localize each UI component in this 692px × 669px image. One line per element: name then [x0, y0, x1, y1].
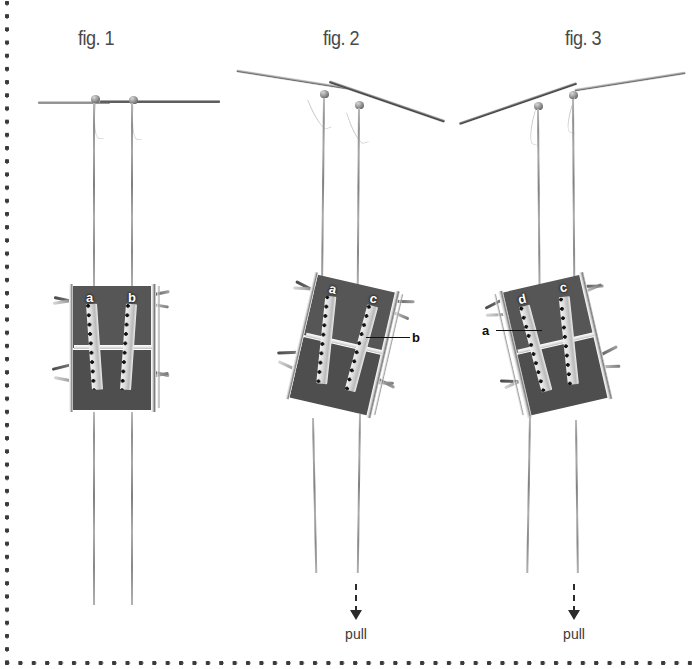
rod-right-segment — [574, 71, 685, 91]
device-body-fig1: a b — [56, 282, 166, 418]
pull-arrow-fig2: pull — [316, 584, 396, 654]
figure-3-caption: fig. 3 — [565, 26, 601, 50]
plate-upper — [72, 286, 152, 348]
string-left-lower — [312, 418, 317, 573]
pull-arrow-head — [568, 610, 580, 620]
device-body-fig3: d c — [486, 267, 627, 429]
label-a-fig3: a — [482, 324, 489, 337]
figure-1-caption: fig. 1 — [78, 26, 114, 50]
figure-3: fig. 3 — [452, 0, 692, 669]
leader-line-b-fig2 — [366, 337, 410, 338]
rod-left-segment — [236, 69, 347, 89]
knot-left — [91, 95, 100, 103]
pull-arrow-shaft — [355, 584, 357, 612]
string-wisp-left — [307, 95, 332, 132]
pull-arrow-head — [350, 610, 362, 620]
figure-2: fig. 2 — [238, 0, 463, 669]
plate-lower — [72, 350, 152, 410]
string-left-upper — [93, 103, 95, 288]
rod-right-segment — [100, 100, 220, 103]
crossbar — [74, 345, 152, 349]
string-right-lower — [131, 412, 133, 605]
edge-strip-left — [69, 284, 73, 412]
leader-line-a-fig3 — [496, 330, 542, 331]
pull-label: pull — [345, 626, 367, 642]
label-a-fig1: a — [86, 291, 93, 304]
diagram-page: fig. 1 — [0, 0, 692, 669]
pull-arrow-shaft — [573, 584, 575, 612]
string-right-upper — [357, 108, 360, 288]
edge-strip-right-2 — [157, 286, 160, 408]
label-b-fig1: b — [128, 291, 136, 304]
pull-label: pull — [563, 626, 585, 642]
knot-left — [320, 90, 329, 98]
rod-left-segment — [459, 82, 577, 125]
string-left-lower — [526, 416, 531, 573]
figure-1: fig. 1 — [0, 0, 240, 669]
string-right-upper — [131, 103, 133, 288]
device-body-fig2: a c — [272, 267, 413, 429]
pull-arrow-fig3: pull — [534, 584, 614, 654]
string-left-lower — [93, 412, 95, 605]
string-right-lower — [575, 420, 579, 573]
label-b-fig2: b — [412, 331, 420, 344]
figure-2-caption: fig. 2 — [323, 26, 359, 50]
string-wisp-right — [562, 97, 586, 134]
string-right-lower — [357, 414, 361, 573]
